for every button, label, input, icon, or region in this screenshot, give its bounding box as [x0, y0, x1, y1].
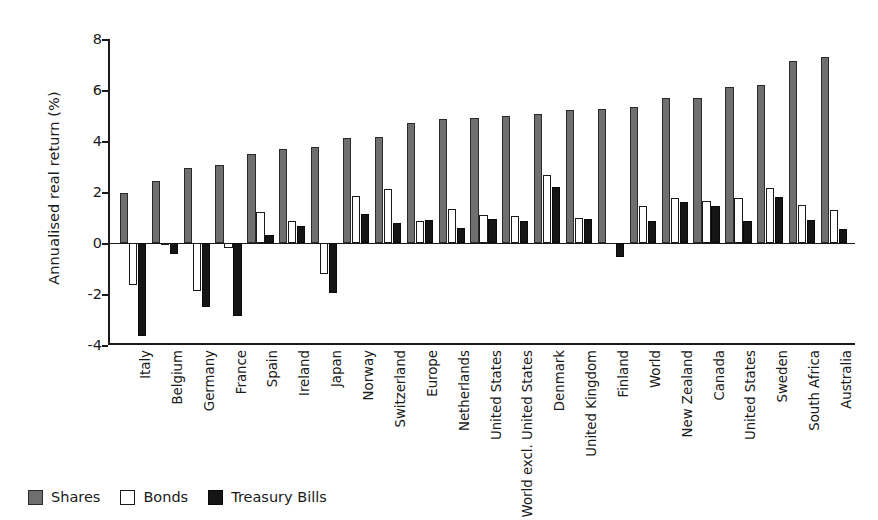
x-axis-label: Sweden	[775, 350, 790, 403]
bar-shares	[566, 110, 574, 243]
bar-shares	[757, 85, 765, 243]
bar-bonds	[766, 188, 774, 243]
x-axis-label: Finland	[616, 350, 631, 398]
y-axis-tick-label: 6	[93, 82, 102, 98]
bar-bonds	[416, 221, 424, 243]
x-axis-label: Japan	[329, 350, 344, 387]
bar-bonds	[702, 201, 710, 243]
bar-bills	[680, 202, 688, 243]
x-axis-label: Netherlands	[457, 350, 472, 431]
y-axis-tick-labels: -4-202468	[66, 39, 102, 345]
y-axis-tick	[102, 192, 108, 194]
bar-bills	[457, 228, 465, 243]
x-axis-label: Belgium	[170, 350, 185, 405]
y-axis-tick-label: 0	[93, 235, 102, 251]
y-axis-tick-label: 2	[93, 184, 102, 200]
bar-shares	[821, 57, 829, 243]
bar-bills	[297, 226, 305, 243]
x-axis-label: World excl. United States	[520, 350, 535, 517]
bar-bills	[616, 243, 624, 257]
legend-swatch-shares	[28, 490, 43, 505]
bar-bonds	[575, 218, 583, 244]
y-axis-tick	[102, 141, 108, 143]
bar-bills	[393, 223, 401, 243]
bar-shares	[184, 168, 192, 243]
bar-bonds	[224, 243, 232, 248]
legend-item: Treasury Bills	[208, 489, 327, 505]
legend-item: Bonds	[120, 489, 188, 505]
y-axis-title: Annualised real return (%)	[46, 38, 62, 338]
legend-swatch-bonds	[120, 490, 135, 505]
x-axis-label: United States	[743, 350, 758, 440]
x-axis-label: United States	[489, 350, 504, 440]
bar-shares	[598, 109, 606, 243]
x-axis-label: World	[648, 350, 663, 388]
bar-shares	[470, 118, 478, 243]
y-axis-tick-label: 4	[93, 133, 102, 149]
bar-bonds	[256, 212, 264, 243]
x-axis-label: Norway	[361, 350, 376, 400]
bar-bonds	[352, 196, 360, 243]
bar-bills	[170, 243, 178, 254]
bar-bonds	[671, 198, 679, 243]
bar-shares	[215, 165, 223, 243]
bar-shares	[311, 147, 319, 243]
x-axis-label: Ireland	[297, 350, 312, 396]
bar-shares	[439, 119, 447, 243]
bar-bonds	[448, 209, 456, 243]
y-axis-tick	[102, 90, 108, 92]
y-axis-tick-label: -2	[88, 286, 102, 302]
bar-shares	[534, 114, 542, 243]
legend-label: Shares	[51, 489, 100, 505]
bar-bonds	[543, 175, 551, 243]
x-axis-label: Canada	[712, 350, 727, 401]
bar-shares	[502, 116, 510, 244]
x-axis-label: Denmark	[552, 350, 567, 411]
bar-bills	[138, 243, 146, 336]
bar-bills	[839, 229, 847, 243]
bar-chart: Annualised real return (%) -4-202468 Ita…	[0, 0, 878, 520]
y-axis-tick	[102, 39, 108, 41]
bar-shares	[279, 149, 287, 243]
bar-bonds	[734, 198, 742, 243]
x-axis-label: Australia	[839, 350, 854, 409]
y-axis-tick-label: 8	[93, 31, 102, 47]
bar-bills	[329, 243, 337, 293]
x-axis-label: Europe	[425, 350, 440, 397]
bar-bills	[488, 219, 496, 243]
bar-bills	[425, 220, 433, 243]
bar-bonds	[161, 243, 169, 245]
bar-shares	[662, 98, 670, 243]
x-axis-label: France	[234, 350, 249, 394]
x-axis-label: South Africa	[807, 350, 822, 431]
bar-bonds	[193, 243, 201, 291]
bar-bills	[584, 219, 592, 243]
bar-shares	[630, 107, 638, 243]
bar-shares	[725, 87, 733, 243]
bar-shares	[693, 98, 701, 243]
bar-bonds	[129, 243, 137, 285]
bar-bills	[265, 235, 273, 243]
y-axis-tick	[102, 345, 108, 347]
zero-baseline	[108, 243, 855, 244]
bar-bills	[711, 206, 719, 243]
x-axis-label: Switzerland	[393, 350, 408, 428]
bar-shares	[247, 154, 255, 243]
x-axis-label: Italy	[138, 350, 153, 379]
x-axis-category-labels: ItalyBelgiumGermanyFranceSpainIrelandJap…	[108, 350, 855, 470]
bar-bills	[361, 214, 369, 243]
legend-label: Treasury Bills	[231, 489, 327, 505]
y-axis-tick	[102, 243, 108, 245]
bar-bills	[743, 221, 751, 243]
bar-bills	[552, 187, 560, 243]
x-axis-label: Spain	[265, 350, 280, 387]
bar-bills	[775, 197, 783, 243]
y-axis-line	[108, 39, 110, 345]
bar-shares	[789, 61, 797, 243]
x-axis-label: New Zealand	[680, 350, 695, 437]
x-axis-label: Germany	[202, 350, 217, 411]
bar-bonds	[798, 205, 806, 243]
y-axis-tick-label: -4	[88, 337, 102, 353]
bar-bills	[202, 243, 210, 307]
plot-area	[108, 39, 855, 345]
